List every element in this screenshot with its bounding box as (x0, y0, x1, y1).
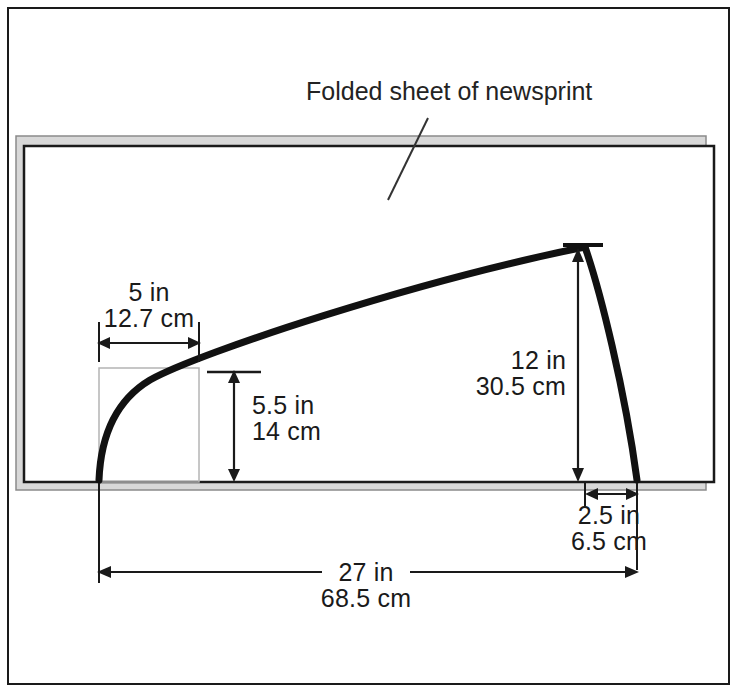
dimension-width-total-metric: 68.5 cm (321, 584, 411, 612)
dimension-width-bottom-right-metric: 6.5 cm (571, 527, 647, 555)
dimension-height-right-imperial: 12 in (511, 346, 566, 374)
dimension-width-bottom-right-imperial: 2.5 in (578, 501, 640, 529)
diagram-canvas: Folded sheet of newsprint 5 in 12.7 cm (0, 0, 737, 692)
dimension-width-total: 27 in 68.5 cm (97, 483, 639, 612)
dimension-height-mid-imperial: 5.5 in (252, 391, 314, 419)
dimension-width-total-imperial: 27 in (338, 558, 393, 586)
figure-container: Folded sheet of newsprint 5 in 12.7 cm (0, 0, 737, 692)
dimension-height-right-metric: 30.5 cm (476, 372, 566, 400)
dimension-height-mid-metric: 14 cm (252, 417, 321, 445)
dimension-width-bottom-right: 2.5 in 6.5 cm (571, 483, 647, 570)
figure-title: Folded sheet of newsprint (306, 77, 592, 105)
dimension-width-top-imperial: 5 in (128, 278, 169, 306)
dimension-width-top-metric: 12.7 cm (104, 304, 194, 332)
